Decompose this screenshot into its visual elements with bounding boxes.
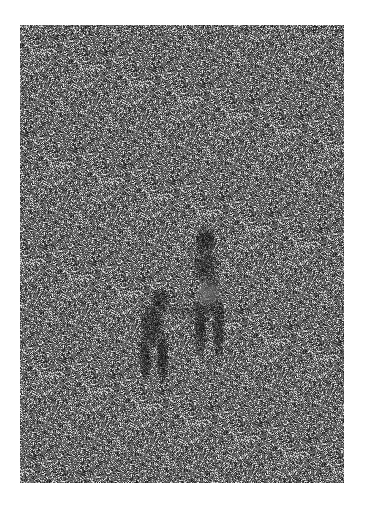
texture-canvas bbox=[20, 25, 344, 483]
photograph: Grainy gray textured surface with faint … bbox=[20, 25, 344, 483]
